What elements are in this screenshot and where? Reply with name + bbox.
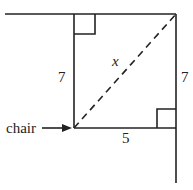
arrow-head-icon [62,124,72,132]
bottom-side-label: 5 [122,130,130,146]
left-side-label: 7 [58,69,66,85]
diagram-canvas: 7 7 5 x chair [0,0,193,190]
diagonal-label: x [111,53,119,69]
right-angle-marker-top [74,14,95,34]
diagonal-dashed-line [74,14,176,128]
chair-label: chair [6,120,36,136]
right-side-label: 7 [181,69,189,85]
right-angle-marker-bottom [157,109,176,128]
